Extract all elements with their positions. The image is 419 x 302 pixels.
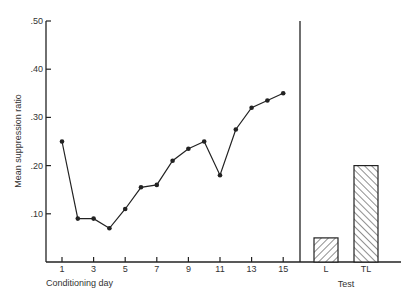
data-point [60, 139, 65, 144]
x-tick-label: 5 [123, 264, 128, 274]
x-tick-label: 15 [278, 264, 288, 274]
x-tick-label: 3 [91, 264, 96, 274]
y-axis-label: Mean suppression ratio [13, 94, 23, 188]
data-point [218, 173, 223, 178]
data-point [234, 127, 239, 132]
axis-labels: Mean suppression ratio Conditioning day … [13, 94, 355, 289]
test-bars: LTL [314, 166, 378, 274]
bar-label-l: L [323, 264, 328, 274]
data-point [281, 91, 286, 96]
x-axis: 13579111315 [46, 21, 401, 274]
data-point [170, 158, 175, 163]
bar-l [314, 238, 338, 262]
data-point [123, 207, 128, 212]
y-axis: .10.20.30.40.50 [30, 16, 51, 262]
data-point [202, 139, 207, 144]
data-point [265, 98, 270, 103]
data-point [107, 226, 112, 231]
x-tick-label: 7 [154, 264, 159, 274]
x-tick-label: 13 [247, 264, 257, 274]
x-tick-label: 9 [186, 264, 191, 274]
data-point [155, 183, 160, 188]
y-tick-label: .30 [30, 112, 43, 122]
y-tick-label: .20 [30, 161, 43, 171]
chart: .10.20.30.40.50 13579111315 LTL Mean sup… [0, 0, 419, 302]
data-point [139, 185, 144, 190]
x-tick-label: 11 [215, 264, 224, 274]
data-point [186, 146, 191, 151]
data-point [76, 216, 81, 221]
x-axis-label-conditioning: Conditioning day [46, 278, 114, 288]
line-series [60, 91, 286, 231]
bar-label-tl: TL [361, 264, 372, 274]
y-tick-label: .10 [30, 209, 43, 219]
data-point [91, 216, 96, 221]
y-tick-label: .50 [30, 16, 43, 26]
bar-tl [354, 166, 378, 262]
y-tick-label: .40 [30, 64, 43, 74]
x-tick-label: 1 [59, 264, 64, 274]
data-point [249, 105, 254, 110]
x-axis-label-test: Test [338, 279, 355, 289]
